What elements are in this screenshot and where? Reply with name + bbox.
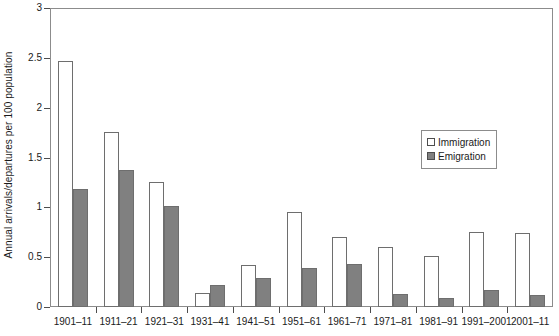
legend-label-immigration: Immigration (438, 137, 490, 148)
y-axis-tick-label: 2 (0, 103, 42, 113)
filled-square-swatch-icon (427, 152, 435, 160)
x-axis-tick (416, 307, 417, 313)
x-axis-tick-label: 1971–81 (370, 316, 416, 327)
legend-label-emigration: Emigration (438, 151, 486, 162)
x-axis-tick-label: 1951–61 (279, 316, 325, 327)
bar-immigration (195, 293, 210, 307)
bar-emigration (439, 298, 454, 307)
y-axis-tick (44, 108, 50, 109)
bar-immigration (515, 233, 530, 307)
x-axis-tick-label: 1901–11 (50, 316, 96, 327)
bar-immigration (241, 265, 256, 307)
y-axis-tick (44, 58, 50, 59)
x-axis-tick (370, 307, 371, 313)
x-axis-tick-label: 1961–71 (324, 316, 370, 327)
bar-immigration (424, 256, 439, 307)
x-axis-tick (279, 307, 280, 313)
bar-emigration (393, 294, 408, 307)
chart-legend: Immigration Emigration (421, 130, 497, 169)
y-axis-tick (44, 207, 50, 208)
y-axis-tick-label: 0 (0, 302, 42, 312)
x-axis-tick (233, 307, 234, 313)
x-axis-tick (187, 307, 188, 313)
x-axis-tick-label: 1941–51 (233, 316, 279, 327)
x-axis-tick-label: 1911–21 (96, 316, 142, 327)
x-axis-tick (324, 307, 325, 313)
legend-item-emigration: Emigration (427, 149, 490, 163)
bar-chart: Annual arrivals/departures per 100 popul… (0, 0, 559, 336)
y-axis-tick-label: 2.5 (0, 53, 42, 63)
y-axis-tick (44, 8, 50, 9)
x-axis-tick (141, 307, 142, 313)
x-axis-tick-label: 1991–2001 (462, 316, 508, 327)
bar-emigration (256, 278, 271, 307)
legend-item-immigration: Immigration (427, 135, 490, 149)
x-axis-tick-label: 2001–11 (507, 316, 553, 327)
open-square-swatch-icon (427, 138, 435, 146)
bar-immigration (104, 132, 119, 307)
x-axis-tick-label: 1921–31 (141, 316, 187, 327)
y-axis-tick (44, 307, 50, 308)
x-axis-tick (462, 307, 463, 313)
bar-emigration (73, 189, 88, 307)
bar-emigration (302, 268, 317, 307)
bar-emigration (164, 206, 179, 307)
bar-immigration (378, 247, 393, 307)
y-axis-tick (44, 158, 50, 159)
bar-emigration (210, 285, 225, 307)
y-axis-tick-label: 0.5 (0, 252, 42, 262)
bar-immigration (332, 237, 347, 307)
bar-emigration (530, 295, 545, 307)
y-axis-tick-label: 3 (0, 3, 42, 13)
x-axis-tick (96, 307, 97, 313)
x-axis-tick-label: 1931–41 (187, 316, 233, 327)
bar-immigration (149, 182, 164, 307)
x-axis-tick-label: 1981–91 (416, 316, 462, 327)
bar-emigration (347, 264, 362, 307)
bar-immigration (287, 212, 302, 307)
bar-immigration (58, 61, 73, 307)
y-axis-tick (44, 257, 50, 258)
y-axis-tick-label: 1.5 (0, 153, 42, 163)
bar-immigration (469, 232, 484, 307)
bar-emigration (484, 290, 499, 307)
y-axis-tick-label: 1 (0, 202, 42, 212)
x-axis-tick (507, 307, 508, 313)
bar-emigration (119, 170, 134, 307)
